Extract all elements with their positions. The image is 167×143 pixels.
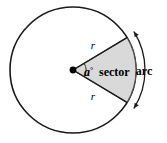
sector-diagram-canvas: r r a° sector arc [0, 0, 167, 143]
sector-label: sector [99, 65, 130, 79]
circle-center-point [70, 67, 77, 74]
degree-symbol: ° [90, 66, 93, 75]
radius-lower-label: r [91, 90, 96, 102]
radius-upper-label: r [91, 39, 96, 51]
arc-label: arc [136, 64, 153, 78]
sector-diagram-figure: r r a° sector arc [0, 0, 167, 143]
